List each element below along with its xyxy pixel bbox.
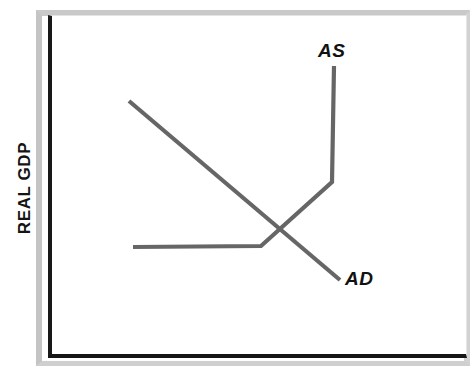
ad-curve [129,101,340,280]
as-curve [133,66,334,247]
as-curve-label: AS [318,40,345,62]
figure-canvas: REAL GDP AS AD [0,0,476,375]
ad-curve-label: AD [345,268,373,290]
curves-layer [0,0,476,375]
